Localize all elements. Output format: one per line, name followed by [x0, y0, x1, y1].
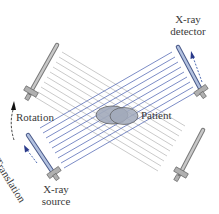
patient-label: Patient	[141, 109, 172, 121]
rotation-label: Rotation	[16, 111, 54, 123]
xray-source-bar	[28, 135, 61, 181]
source-label-line2: source	[36, 195, 76, 207]
detector-label-line1: X-ray	[163, 13, 213, 25]
source-label-line1: X-ray	[36, 183, 76, 195]
detector-label: X-ray detector	[163, 13, 213, 37]
detector-label-line2: detector	[163, 25, 213, 37]
patient-icon	[96, 106, 138, 125]
gray-bar-lower-right	[174, 130, 203, 182]
source-label: X-ray source	[36, 183, 76, 207]
